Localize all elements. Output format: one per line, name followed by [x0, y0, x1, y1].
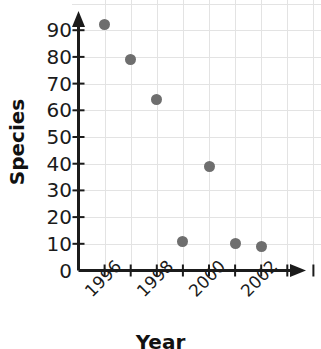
y-axis-title: Species — [5, 92, 29, 192]
y-tick-label: 90 — [47, 20, 72, 40]
y-tick-label: 80 — [47, 47, 72, 67]
y-tick-label: 70 — [47, 74, 72, 94]
x-axis-title: Year — [0, 330, 321, 349]
data-point — [256, 241, 267, 252]
y-tick-label: 30 — [47, 180, 72, 200]
data-point — [177, 236, 188, 247]
data-point — [230, 238, 241, 249]
y-tick-label: 40 — [47, 154, 72, 174]
y-tick-label: 50 — [47, 127, 72, 147]
x-axis-arrowhead — [290, 264, 306, 277]
y-axis-arrowhead — [72, 11, 85, 27]
data-point — [204, 161, 215, 172]
y-tick-label: 0 — [59, 261, 72, 281]
scatter-plot-figure: 9080706050403020100 1996199820002002 Spe… — [0, 0, 321, 349]
y-tick-label: 60 — [47, 100, 72, 120]
y-tick-label: 10 — [47, 234, 72, 254]
y-tick-label: 20 — [47, 207, 72, 227]
